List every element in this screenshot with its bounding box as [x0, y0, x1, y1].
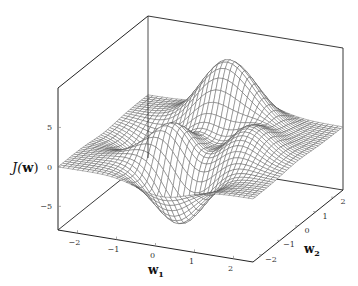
y-tick-label: −2 — [265, 255, 277, 264]
box-edge-back-top — [148, 16, 343, 48]
box-edge-left-top — [58, 16, 148, 88]
y-tick-label: 0 — [304, 226, 309, 235]
z-tick-label: 5 — [47, 123, 52, 132]
surface-mesh — [58, 60, 343, 224]
y-axis-label: w2 — [303, 242, 320, 258]
y-tick-label: 2 — [340, 197, 345, 206]
x-tick-label: −1 — [108, 245, 120, 254]
z-axis-label: J(w) — [9, 160, 39, 175]
surface-plot: −2−1012−2−1012−505 w1 w2 J(w) — [0, 0, 358, 286]
z-tick-label: −5 — [40, 202, 52, 211]
y-tick-label: 1 — [322, 212, 327, 221]
x-tick-label: −2 — [69, 238, 81, 247]
x-tick-label: 1 — [189, 257, 194, 266]
x-axis-label: w1 — [147, 263, 164, 279]
x-tick-label: 2 — [228, 264, 233, 273]
x-tick-label: 0 — [150, 251, 155, 260]
z-tick-label: 0 — [47, 163, 52, 172]
y-tick-label: −1 — [283, 240, 295, 249]
